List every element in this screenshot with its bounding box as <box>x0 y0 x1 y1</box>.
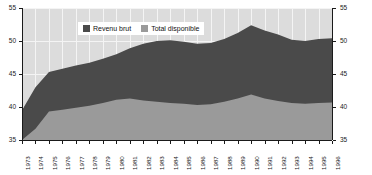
y-axis-tick-label: 45 <box>2 71 16 78</box>
x-axis-tick-label: 1976 <box>65 156 71 170</box>
y-axis-left <box>22 8 23 140</box>
x-axis-tick-label: 1991 <box>267 156 273 170</box>
y-axis-tick <box>333 107 336 108</box>
x-axis-tick <box>319 141 320 144</box>
x-axis-tick <box>184 141 185 144</box>
x-axis-tick-label: 1996 <box>335 156 341 170</box>
x-axis-tick <box>157 141 158 144</box>
x-axis-tick-label: 1993 <box>294 156 300 170</box>
x-axis-tick-label: 1979 <box>105 156 111 170</box>
legend-item-revenu-brut: Revenu brut <box>83 25 131 32</box>
x-axis-tick <box>224 141 225 144</box>
x-axis-tick-label: 1986 <box>200 156 206 170</box>
x-axis-tick-label: 1981 <box>132 156 138 170</box>
x-axis-tick-label: 1980 <box>119 156 125 170</box>
legend-swatch-revenu-brut <box>83 25 90 32</box>
x-axis-tick-label: 1984 <box>173 156 179 170</box>
x-axis-tick <box>211 141 212 144</box>
x-axis-tick <box>22 141 23 144</box>
x-axis-tick <box>251 141 252 144</box>
x-axis-tick <box>89 141 90 144</box>
x-axis-tick <box>278 141 279 144</box>
x-axis-tick <box>332 141 333 144</box>
y-axis-tick <box>333 8 336 9</box>
legend-swatch-total-disponible <box>141 25 148 32</box>
x-axis-tick <box>130 141 131 144</box>
y-axis-tick <box>19 107 22 108</box>
x-axis-tick-label: 1974 <box>38 156 44 170</box>
x-axis-tick-label: 1995 <box>321 156 327 170</box>
x-axis-tick <box>76 141 77 144</box>
x-axis-tick-label: 1983 <box>159 156 165 170</box>
x-axis-tick-label: 1978 <box>92 156 98 170</box>
y-axis-tick-label: 50 <box>340 38 354 45</box>
x-axis-tick-label: 1989 <box>240 156 246 170</box>
x-axis-tick-label: 1990 <box>254 156 260 170</box>
x-axis <box>22 140 332 141</box>
x-axis-tick <box>143 141 144 144</box>
y-axis-tick-label: 35 <box>340 137 354 144</box>
x-axis-tick-label: 1992 <box>281 156 287 170</box>
legend-label-total-disponible: Total disponible <box>151 25 199 32</box>
y-axis-tick-label: 35 <box>2 137 16 144</box>
x-axis-tick-label: 1985 <box>186 156 192 170</box>
x-axis-tick <box>292 141 293 144</box>
legend-label-revenu-brut: Revenu brut <box>93 25 131 32</box>
y-axis-tick-label: 40 <box>340 104 354 111</box>
y-axis-tick-label: 55 <box>340 5 354 12</box>
y-axis-tick-label: 40 <box>2 104 16 111</box>
x-axis-tick-label: 1982 <box>146 156 152 170</box>
y-axis-tick-label: 55 <box>2 5 16 12</box>
x-axis-tick <box>265 141 266 144</box>
y-axis-tick <box>333 140 336 141</box>
x-axis-tick-label: 1994 <box>308 156 314 170</box>
chart-legend: Revenu brut Total disponible <box>78 22 204 35</box>
x-axis-tick <box>49 141 50 144</box>
x-axis-tick <box>62 141 63 144</box>
x-axis-tick <box>103 141 104 144</box>
legend-item-total-disponible: Total disponible <box>141 25 199 32</box>
x-axis-tick <box>305 141 306 144</box>
x-axis-tick-label: 1973 <box>25 156 31 170</box>
y-axis-tick <box>19 8 22 9</box>
area-chart: 3540455055 3540455055 197319741975197619… <box>0 0 372 175</box>
x-axis-tick <box>170 141 171 144</box>
y-axis-tick <box>333 41 336 42</box>
x-axis-tick-label: 1987 <box>213 156 219 170</box>
x-axis-tick <box>238 141 239 144</box>
y-axis-tick <box>19 74 22 75</box>
x-axis-tick-label: 1988 <box>227 156 233 170</box>
y-axis-tick-label: 50 <box>2 38 16 45</box>
x-axis-tick-label: 1975 <box>52 156 58 170</box>
y-axis-tick <box>19 41 22 42</box>
y-axis-tick-label: 45 <box>340 71 354 78</box>
x-axis-tick <box>197 141 198 144</box>
y-axis-tick <box>333 74 336 75</box>
x-axis-tick <box>35 141 36 144</box>
x-axis-tick <box>116 141 117 144</box>
x-axis-tick-label: 1977 <box>79 156 85 170</box>
